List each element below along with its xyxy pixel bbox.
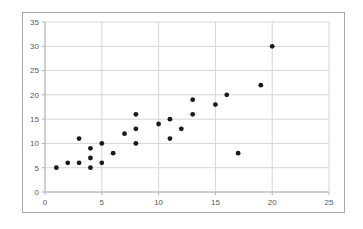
scatter-plot: 051015202505101520253035 bbox=[23, 13, 344, 212]
data-point bbox=[99, 160, 104, 165]
data-point bbox=[133, 141, 138, 146]
data-point bbox=[77, 160, 82, 165]
data-point bbox=[190, 97, 195, 102]
data-point bbox=[213, 102, 218, 107]
chart-canvas: 051015202505101520253035 bbox=[0, 0, 363, 229]
chart-frame: 051015202505101520253035 bbox=[22, 12, 345, 213]
data-point bbox=[122, 131, 127, 136]
data-point bbox=[88, 146, 93, 151]
data-point bbox=[156, 122, 161, 127]
y-tick-label: 20 bbox=[30, 91, 39, 100]
data-point bbox=[88, 165, 93, 170]
data-point bbox=[133, 112, 138, 117]
y-tick-label: 25 bbox=[30, 66, 39, 75]
data-point bbox=[65, 160, 70, 165]
data-point bbox=[54, 165, 59, 170]
y-tick-label: 35 bbox=[30, 18, 39, 27]
y-tick-label: 15 bbox=[30, 115, 39, 124]
data-point bbox=[133, 126, 138, 131]
data-point bbox=[111, 151, 116, 156]
x-tick-label: 20 bbox=[268, 198, 277, 207]
data-point bbox=[77, 136, 82, 141]
y-tick-label: 30 bbox=[30, 42, 39, 51]
x-tick-label: 0 bbox=[43, 198, 48, 207]
y-tick-label: 10 bbox=[30, 139, 39, 148]
data-point bbox=[236, 151, 241, 156]
y-tick-label: 0 bbox=[35, 188, 40, 197]
data-point bbox=[224, 92, 229, 97]
x-tick-label: 15 bbox=[211, 198, 220, 207]
data-point bbox=[258, 83, 263, 88]
data-point bbox=[270, 44, 275, 49]
data-point bbox=[168, 117, 173, 122]
data-point bbox=[190, 112, 195, 117]
x-tick-label: 10 bbox=[154, 198, 163, 207]
data-point bbox=[99, 141, 104, 146]
y-tick-label: 5 bbox=[35, 164, 40, 173]
x-tick-label: 25 bbox=[325, 198, 334, 207]
x-tick-label: 5 bbox=[100, 198, 105, 207]
data-point bbox=[88, 156, 93, 161]
data-point bbox=[168, 136, 173, 141]
data-point bbox=[179, 126, 184, 131]
